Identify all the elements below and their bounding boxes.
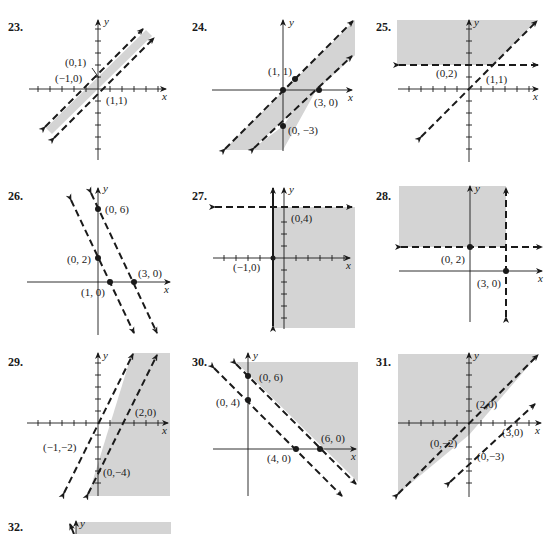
problem-number: 28. [376,189,391,203]
y-axis-label: y [473,349,479,361]
point-label: (0, 6) [105,203,129,216]
y-axis-label: y [79,517,85,529]
graph-26: 26. y x (0, 6) (0, 2) (3, 0) (1, 0) [8,182,170,335]
shaded-region [236,362,358,482]
y-axis-label: y [252,349,258,361]
point-label: (−1,0) [233,261,261,274]
x-axis-label: x [532,90,538,102]
point [280,87,286,93]
x-axis-label: x [347,91,353,103]
point [317,446,323,452]
point-label: (4, 0) [267,452,291,465]
problem-number: 24. [192,20,207,34]
point-label: (0,−3) [477,450,505,463]
y-axis-label: y [473,16,479,28]
shaded-region [273,207,355,328]
exercise-graphs-page: 23. y x (0,1) (−1,0) (1,1) 24. [0,0,553,534]
point-label: (1,1) [486,73,507,86]
point [280,123,286,129]
point [107,279,113,285]
point-label: (0, 2) [67,253,91,266]
problem-number: 29. [8,355,23,369]
point [292,76,298,82]
x-axis-label: x [537,272,543,284]
problem-number: 31. [376,355,391,369]
point [503,268,509,274]
point-label: (0, 4) [216,396,240,409]
boundary-line-lower [54,38,154,138]
y-axis-label: y [288,16,294,28]
point-label: (0, −3) [288,124,318,137]
point [467,244,473,250]
point-label: (1, 1) [268,65,292,78]
graph-29: 29. y x (2,0) (−1,−2) (0,−4) [8,349,170,496]
point-label: (1, 0) [81,286,105,299]
x-axis-label: x [161,90,167,102]
graph-24: 24. y x (1, 1) (3, 0) (0, −3) [192,16,355,151]
point-label: (3, 0) [314,96,338,109]
y-axis-label: y [102,349,108,361]
x-axis-label: x [161,424,167,436]
point-label: (2,0) [135,406,156,419]
point-label: (3, 0) [477,277,501,290]
point-label: (3,0) [502,426,523,439]
point-label: (0,−2) [430,437,458,450]
x-axis-label: x [534,424,540,436]
graph-27: 27. y x (0,4) (−1,0) [192,183,355,329]
point [245,373,251,379]
point [95,255,101,261]
point-label: (−1,−2) [43,441,77,454]
problem-number: 26. [8,189,23,203]
x-axis-label: x [163,283,169,295]
problem-number: 30. [192,355,207,369]
point-label: (0,2) [436,67,457,80]
graph-32: 32. y [8,517,171,534]
point-label: (1,1) [106,94,127,107]
point-label: (0,−4) [103,466,131,479]
point-label: (0, 6) [259,371,283,384]
shaded-region [399,186,506,247]
point-label: (2,0) [476,398,497,411]
point-label: (0,4) [291,212,312,225]
point-label: (−1,0) [55,72,83,85]
point-label: (6, 0) [321,432,345,445]
graph-30: 30. y x (0, 6) (0, 4) (6, 0) (4, 0) [192,349,358,496]
y-axis-label: y [474,182,480,194]
shaded-region [76,522,171,534]
boundary-line [70,524,74,534]
x-axis-label: x [345,259,351,271]
point [131,279,137,285]
graph-23: 23. y x (0,1) (−1,0) (1,1) [8,15,167,160]
point-label: (3, 0) [138,267,162,280]
point [316,87,322,93]
graph-31: 31. y x (2,0) (0,−2) (3,0) (0,−3) [376,349,541,497]
problem-number: 23. [8,20,23,34]
point-label: (0,1) [65,56,86,69]
y-axis-label: y [288,183,294,195]
point [245,397,251,403]
point [95,206,101,212]
problem-number: 27. [192,189,207,203]
graph-25: 25. y x (0,2) (1,1) [376,16,538,162]
problem-number: 25. [376,20,391,34]
problem-number: 32. [8,520,23,534]
graph-28: 28. y x (0, 2) (3, 0) [376,182,543,322]
point [293,446,299,452]
y-axis-label: y [103,15,109,27]
y-axis-label: y [102,182,108,194]
x-axis-label: x [350,450,356,462]
point [271,256,276,261]
point-label: (0, 2) [441,253,465,266]
